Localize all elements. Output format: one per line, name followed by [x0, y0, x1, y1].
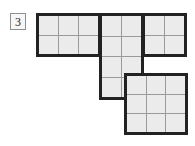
grid-cell[interactable]: [166, 95, 185, 113]
bottom-right-piece[interactable]: [124, 73, 188, 135]
grid-cell[interactable]: [145, 36, 164, 55]
polyomino-board: [36, 13, 188, 135]
top-right-piece[interactable]: [142, 13, 187, 57]
grid-cell[interactable]: [122, 16, 141, 36]
grid-cell[interactable]: [39, 16, 58, 35]
grid-cell[interactable]: [166, 76, 185, 94]
grid-cell[interactable]: [79, 16, 98, 35]
grid-cell[interactable]: [127, 76, 146, 94]
grid-cell[interactable]: [39, 36, 58, 55]
grid-cell[interactable]: [147, 76, 166, 94]
grid-cell[interactable]: [165, 36, 184, 55]
grid-cell[interactable]: [59, 16, 78, 35]
top-left-piece[interactable]: [36, 13, 101, 57]
grid-cell[interactable]: [102, 57, 121, 77]
grid-cell[interactable]: [145, 16, 164, 35]
grid-cell[interactable]: [147, 95, 166, 113]
grid-cell[interactable]: [59, 36, 78, 55]
grid-cell[interactable]: [127, 95, 146, 113]
figure-index-label: 3: [10, 13, 26, 30]
figure-canvas: 3: [0, 0, 195, 146]
figure-index-value: 3: [15, 16, 21, 28]
grid-cell[interactable]: [79, 36, 98, 55]
grid-cell[interactable]: [122, 37, 141, 57]
grid-cell[interactable]: [102, 37, 121, 57]
grid-cell[interactable]: [102, 16, 121, 36]
grid-cell[interactable]: [166, 114, 185, 132]
grid-cell[interactable]: [102, 78, 121, 98]
grid-cell[interactable]: [127, 114, 146, 132]
grid-cell[interactable]: [147, 114, 166, 132]
grid-cell[interactable]: [165, 16, 184, 35]
